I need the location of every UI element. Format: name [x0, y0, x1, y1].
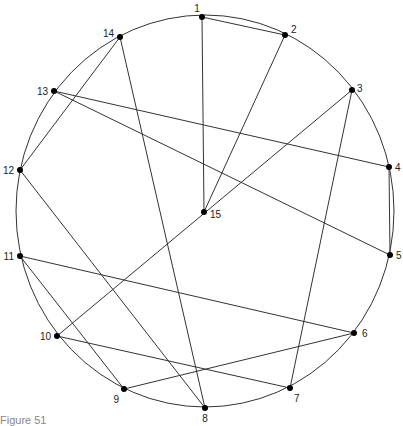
node-12 [17, 167, 23, 173]
edge-5-13 [54, 91, 390, 255]
node-label-6: 6 [362, 328, 368, 339]
edge-1-15 [202, 17, 204, 212]
node-9 [121, 386, 127, 392]
edge-4-13 [54, 91, 389, 167]
edge-12-14 [20, 37, 120, 170]
edge-2-15 [204, 35, 285, 212]
node-label-2: 2 [291, 24, 297, 35]
node-label-15: 15 [210, 209, 222, 220]
edge-3-7 [290, 90, 352, 388]
node-label-10: 10 [40, 331, 52, 342]
node-label-7: 7 [294, 393, 300, 404]
edge-6-11 [20, 256, 354, 333]
node-1 [199, 14, 205, 20]
edge-7-10 [57, 336, 290, 388]
node-label-1: 1 [194, 3, 200, 14]
edge-8-14 [120, 37, 205, 408]
node-label-11: 11 [4, 251, 15, 262]
node-13 [51, 88, 57, 94]
node-14 [117, 34, 123, 40]
node-label-14: 14 [103, 28, 115, 39]
node-label-5: 5 [396, 250, 402, 261]
node-label-8: 8 [202, 413, 208, 424]
node-label-3: 3 [357, 83, 363, 94]
edge-1-2 [202, 17, 285, 35]
node-10 [54, 333, 60, 339]
node-label-12: 12 [3, 165, 15, 176]
node-3 [349, 87, 355, 93]
node-6 [351, 330, 357, 336]
edge-4-5 [389, 167, 390, 255]
node-11 [17, 253, 23, 259]
node-label-4: 4 [395, 162, 401, 173]
node-4 [386, 164, 392, 170]
figure-caption: Figure 51 [0, 414, 46, 426]
node-label-9: 9 [113, 394, 119, 405]
node-5 [387, 252, 393, 258]
node-8 [202, 405, 208, 411]
edge-6-9 [124, 333, 354, 389]
node-2 [282, 32, 288, 38]
node-label-13: 13 [37, 86, 49, 97]
node-15 [201, 209, 207, 215]
node-7 [287, 385, 293, 391]
